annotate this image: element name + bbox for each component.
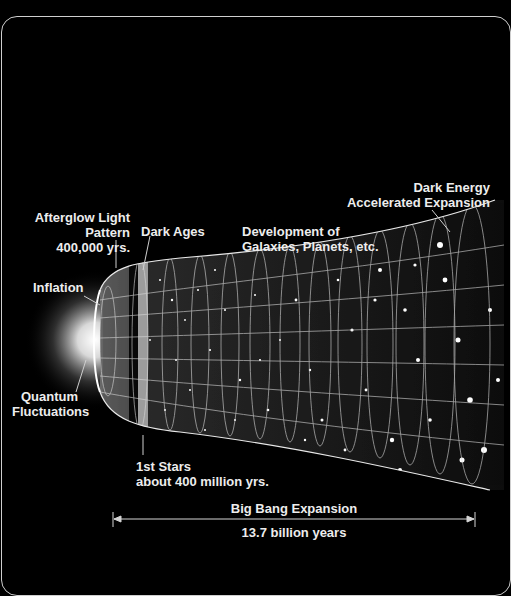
quantum-line-2: Fluctuations: [12, 404, 87, 419]
first-stars-label: 1st Stars about 400 million yrs.: [136, 459, 269, 489]
dark-energy-label: Dark Energy Accelerated Expansion: [320, 180, 490, 210]
quantum-fluctuations-label: Quantum Fluctuations: [12, 389, 87, 419]
first-stars-line-1: 1st Stars: [136, 459, 269, 474]
dark-ages-label: Dark Ages: [141, 224, 205, 239]
diagram-title: Big Bang Expansion: [113, 501, 475, 516]
inflation-label: Inflation: [33, 280, 84, 295]
quantum-line-1: Quantum: [12, 389, 87, 404]
first-stars-line-2: about 400 million yrs.: [136, 474, 269, 489]
afterglow-line-3: 400,000 yrs.: [22, 240, 130, 255]
development-line-1: Development of: [242, 224, 379, 239]
dark-energy-line-2: Accelerated Expansion: [320, 195, 490, 210]
development-label: Development of Galaxies, Planets, etc.: [242, 224, 379, 254]
afterglow-line-2: Pattern: [22, 225, 130, 240]
dark-energy-line-1: Dark Energy: [320, 180, 490, 195]
afterglow-line-1: Afterglow Light: [22, 210, 130, 225]
duration-label: 13.7 billion years: [113, 525, 475, 540]
development-line-2: Galaxies, Planets, etc.: [242, 239, 379, 254]
afterglow-label: Afterglow Light Pattern 400,000 yrs.: [22, 210, 130, 255]
